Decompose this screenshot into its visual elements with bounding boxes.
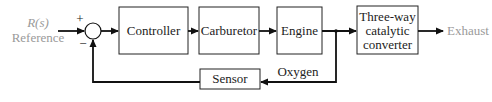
engine-label: Engine: [281, 23, 318, 38]
converter-label-line2: catalytic: [365, 23, 409, 38]
output-label: Exhaust: [447, 23, 489, 38]
plus-sign: +: [76, 11, 83, 26]
converter-label-line3: converter: [363, 37, 413, 52]
carburetor-label: Carburetor: [201, 23, 258, 38]
input-label: Reference: [12, 30, 65, 45]
block-diagram: R(s) Reference + − Controller Carburetor…: [0, 0, 492, 102]
sensor-label: Sensor: [212, 71, 248, 86]
converter-label-line1: Three-way: [359, 9, 416, 24]
minus-sign: −: [79, 36, 86, 51]
input-symbol: R(s): [26, 15, 49, 30]
controller-label: Controller: [127, 23, 181, 38]
summing-junction: [85, 23, 101, 39]
oxygen-label: Oxygen: [277, 64, 319, 79]
